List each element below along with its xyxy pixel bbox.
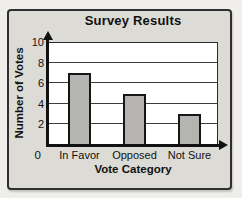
bar-opposed — [123, 94, 146, 146]
x-category-label: Not Sure — [160, 149, 220, 161]
y-tick-label: 2 — [19, 118, 44, 130]
y-tick-label: 10 — [19, 36, 44, 48]
plot-area — [48, 42, 218, 145]
gridline — [48, 62, 217, 63]
x-category-label: In Favor — [50, 149, 110, 161]
chart-title: Survey Results — [48, 13, 218, 28]
y-tick-label: 4 — [19, 98, 44, 110]
x-axis-title: Vote Category — [48, 163, 218, 175]
x-category-label: Opposed — [105, 149, 165, 161]
x-axis-line — [46, 144, 220, 147]
y-axis-line — [46, 37, 49, 147]
bar-in-favor — [68, 73, 91, 145]
origin-tick-label: 0 — [26, 149, 41, 161]
y-axis-arrowhead-icon — [43, 31, 53, 40]
x-axis-arrowhead-icon — [219, 140, 228, 150]
y-tick-label: 8 — [19, 57, 44, 69]
y-tick-label: 6 — [19, 77, 44, 89]
chart-figure: Survey Results 0 Vote Category Number of… — [0, 0, 242, 198]
bar-not-sure — [178, 114, 201, 145]
